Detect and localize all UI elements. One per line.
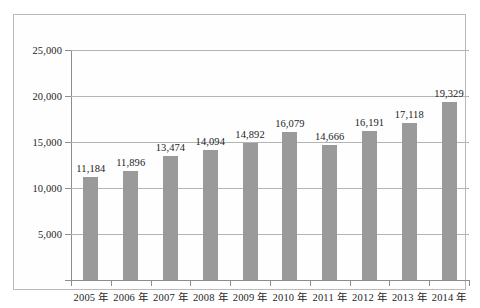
x-tick-mark: [389, 280, 390, 286]
bar-value-label: 11,184: [76, 163, 105, 174]
x-category-label: 2014 年: [432, 289, 467, 304]
bar-value-label: 16,191: [355, 117, 384, 128]
bar-slot: 16,079: [270, 50, 310, 280]
plot-area: 5,00010,00015,00020,00025,000 11,18411,8…: [71, 50, 469, 280]
x-category-label: 2005 年: [73, 289, 108, 304]
bar-value-label: 17,118: [395, 109, 424, 120]
y-tick-label: 20,000: [33, 91, 62, 102]
x-tick-mark: [111, 280, 112, 286]
bar-value-label: 19,329: [434, 88, 463, 99]
bar-value-label: 13,474: [156, 142, 185, 153]
x-category-label: 2012 年: [352, 289, 387, 304]
bar: [203, 150, 218, 280]
x-tick-mark: [151, 280, 152, 286]
x-category-label: 2008 年: [193, 289, 228, 304]
bar-slot: 11,184: [71, 50, 111, 280]
bar-value-label: 14,094: [196, 136, 225, 147]
bar-value-label: 14,892: [235, 129, 264, 140]
x-category-label: 2007 年: [153, 289, 188, 304]
bar-series: 11,18411,89613,47414,09414,89216,07914,6…: [71, 50, 469, 280]
x-tick-mark: [71, 280, 72, 286]
bar-slot: 19,329: [429, 50, 469, 280]
x-category-label: 2011 年: [312, 289, 346, 304]
bar: [83, 177, 98, 280]
x-tick-mark: [469, 280, 470, 286]
x-category-label: 2009 年: [233, 289, 268, 304]
bar: [362, 131, 377, 280]
x-category-label: 2013 年: [392, 289, 427, 304]
bar-slot: 17,118: [389, 50, 429, 280]
x-tick-mark: [350, 280, 351, 286]
chart-frame: 5,00010,00015,00020,00025,000 11,18411,8…: [13, 14, 466, 290]
x-category-label: 2006 年: [113, 289, 148, 304]
x-tick-mark: [310, 280, 311, 286]
bar: [123, 171, 138, 280]
bar: [243, 143, 258, 280]
bar-slot: 14,094: [190, 50, 230, 280]
bar-value-label: 16,079: [275, 118, 304, 129]
x-category-label: 2010 年: [272, 289, 307, 304]
x-tick-mark: [230, 280, 231, 286]
y-tick-label: 10,000: [33, 183, 62, 194]
bar-slot: 13,474: [151, 50, 191, 280]
bar: [163, 156, 178, 280]
bar: [322, 145, 337, 280]
bar-slot: 16,191: [350, 50, 390, 280]
y-tick-label: 5,000: [38, 229, 62, 240]
bar: [282, 132, 297, 280]
y-tick-label: 15,000: [33, 137, 62, 148]
bar: [442, 102, 457, 280]
bar: [402, 123, 417, 280]
bar-slot: 14,666: [310, 50, 350, 280]
bar-slot: 11,896: [111, 50, 151, 280]
y-tick-label: 25,000: [33, 45, 62, 56]
bar-value-label: 11,896: [116, 157, 145, 168]
x-tick-mark: [270, 280, 271, 286]
bar-value-label: 14,666: [315, 131, 344, 142]
bar-slot: 14,892: [230, 50, 270, 280]
x-tick-mark: [190, 280, 191, 286]
x-tick-mark: [429, 280, 430, 286]
